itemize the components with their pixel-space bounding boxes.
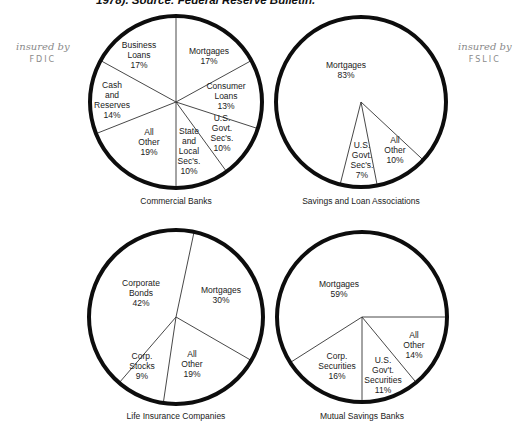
pie-title: Mutual Savings Banks [320, 411, 404, 421]
slice-label: All Other 14% [403, 330, 424, 360]
slice-label: Mortgages 59% [319, 279, 359, 299]
slice-label: Corp. Securities 16% [318, 351, 355, 381]
slice-label: U.S. Gov't. Securities 11% [364, 355, 401, 395]
pie-svg [0, 0, 528, 424]
